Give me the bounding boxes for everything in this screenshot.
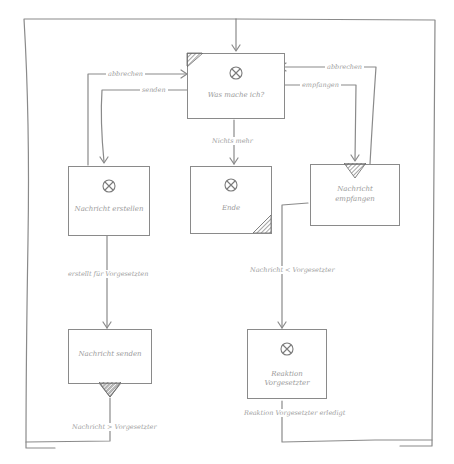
edge-senden <box>101 90 192 162</box>
x-circle-icon <box>229 66 243 80</box>
edge-nachricht-gt <box>26 398 110 442</box>
edge-label-nichts-mehr: Nichts mehr <box>210 137 255 145</box>
edge-label-abbrechen-right: abbrechen <box>325 63 364 71</box>
node-reaktion-vorgesetzter[interactable]: Reaktion Vorgesetzter <box>247 329 327 399</box>
edge-label-empfangen: empfangen <box>300 81 341 89</box>
x-circle-icon <box>224 178 238 192</box>
hatched-triangle-icon <box>344 163 366 178</box>
node-nachricht-erstellen[interactable]: Nachricht erstellen <box>68 166 150 236</box>
edge-label-abbrechen-left: abbrechen <box>106 70 145 78</box>
node-nachricht-senden[interactable]: Nachricht senden <box>68 329 152 384</box>
edge-label-senden: senden <box>140 86 168 94</box>
edge-empfangen <box>284 85 356 160</box>
node-label-line2: empfangen <box>311 195 399 204</box>
node-label: Ende <box>191 204 271 213</box>
edge-label-nachricht-gt: Nachricht > Vorgesetzter <box>70 423 159 431</box>
node-label-line1: Nachricht <box>311 185 399 194</box>
node-label: Reaktion Vorgesetzter <box>248 370 326 388</box>
node-label: Was mache ich? <box>188 91 284 100</box>
hatched-triangle-icon <box>99 382 121 397</box>
edge-label-erstellt: erstellt für Vorgesetzten <box>66 270 150 278</box>
node-label: Nachricht erstellen <box>69 205 149 214</box>
hatched-corner-icon <box>187 53 203 67</box>
node-ende[interactable]: Ende <box>190 166 272 234</box>
edge-label-nachricht-lt: Nachricht < Vorgesetzter <box>248 266 337 274</box>
hatched-corner-icon <box>253 215 271 233</box>
edge-label-reaktion-erledigt: Reaktion Vorgesetzter erledigt <box>242 409 347 417</box>
x-circle-icon <box>102 179 116 193</box>
edge-reaktion-erledigt <box>282 401 432 442</box>
node-label: Nachricht senden <box>69 350 151 359</box>
x-circle-icon <box>280 342 294 356</box>
